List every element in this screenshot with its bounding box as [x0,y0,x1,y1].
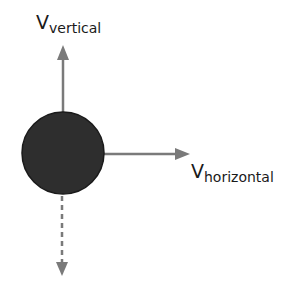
vertical-label-main: V [36,11,49,33]
horizontal-velocity-label: Vhorizontal [191,162,274,181]
horizontal-label-main: V [191,160,204,182]
horizontal-label-sub: horizontal [204,169,274,185]
horizontal-velocity-arrow [104,148,190,160]
projectile-vector-diagram [0,0,295,297]
object-ball [22,112,104,194]
vertical-velocity-arrow [57,45,69,112]
downward-dashed-arrow [56,196,68,276]
vertical-velocity-label: Vvertical [36,13,101,32]
vertical-label-sub: vertical [49,20,101,36]
